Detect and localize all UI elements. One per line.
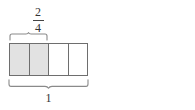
fraction-diagram-one-half: 1 2 1 xyxy=(97,0,195,110)
fraction-diagram-two-fourths: 2 4 1 xyxy=(0,0,97,110)
bar-cell xyxy=(29,44,49,75)
bar-cell xyxy=(10,44,29,75)
bottom-brace-whole-left xyxy=(8,79,89,89)
top-brace-two-fourths xyxy=(9,32,49,41)
whole-label-left: 1 xyxy=(9,92,88,104)
fraction-label-two-fourths: 2 4 xyxy=(27,6,49,34)
fraction-bar-two-fourths xyxy=(9,43,88,76)
fraction-numerator: 2 xyxy=(34,6,42,18)
bar-cell xyxy=(48,44,68,75)
bar-cell xyxy=(68,44,88,75)
fraction-comparison-figure: 2 4 1 1 2 xyxy=(0,0,195,110)
